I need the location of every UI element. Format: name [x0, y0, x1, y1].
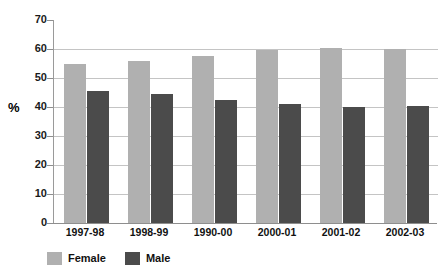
x-axis-baseline: [53, 223, 437, 224]
bar-female-2000-01: [256, 50, 278, 223]
bar-female-2002-03: [384, 49, 406, 223]
gridline: [54, 107, 438, 108]
chart-legend: FemaleMale: [47, 252, 182, 265]
y-axis-tick-label: 10: [3, 188, 47, 199]
y-axis-tick-label: 40: [3, 101, 47, 112]
bar-female-1990-00: [192, 56, 214, 223]
x-axis-label-2001-02: 2001-02: [309, 227, 373, 238]
y-axis-tick-label: 70: [3, 14, 47, 25]
bar-female-1997-98: [64, 64, 86, 224]
gridline: [54, 194, 438, 195]
gridline: [54, 49, 438, 50]
bar-male-2002-03: [407, 106, 429, 223]
x-axis-label-1990-00: 1990-00: [181, 227, 245, 238]
gridline: [54, 78, 438, 79]
x-axis-label-1998-99: 1998-99: [117, 227, 181, 238]
legend-item-female: Female: [47, 252, 106, 265]
legend-item-male: Male: [125, 252, 170, 265]
x-axis-label-2000-01: 2000-01: [245, 227, 309, 238]
legend-swatch-female: [47, 252, 62, 265]
bar-male-2001-02: [343, 107, 365, 223]
gridline: [54, 165, 438, 166]
legend-label-female: Female: [68, 253, 106, 264]
cut-off-text-artifact: [0, 0, 444, 7]
y-axis-tick-label: 30: [3, 130, 47, 141]
y-axis-tick-label: 0: [3, 217, 47, 228]
x-axis-label-2002-03: 2002-03: [373, 227, 437, 238]
bar-female-1998-99: [128, 61, 150, 223]
gridline: [54, 136, 438, 137]
bar-male-1990-00: [215, 100, 237, 223]
y-axis-tick-label: 60: [3, 43, 47, 54]
legend-label-male: Male: [146, 253, 170, 264]
bar-female-2001-02: [320, 48, 342, 223]
bar-male-2000-01: [279, 104, 301, 223]
y-axis-tick-label: 50: [3, 72, 47, 83]
bar-chart: % 010203040506070 1997-981998-991990-002…: [0, 0, 444, 276]
bar-male-1997-98: [87, 91, 109, 223]
legend-swatch-male: [125, 252, 140, 265]
plot-area: [53, 20, 437, 223]
y-axis-tick-label: 20: [3, 159, 47, 170]
x-axis-label-1997-98: 1997-98: [53, 227, 117, 238]
bar-male-1998-99: [151, 94, 173, 223]
